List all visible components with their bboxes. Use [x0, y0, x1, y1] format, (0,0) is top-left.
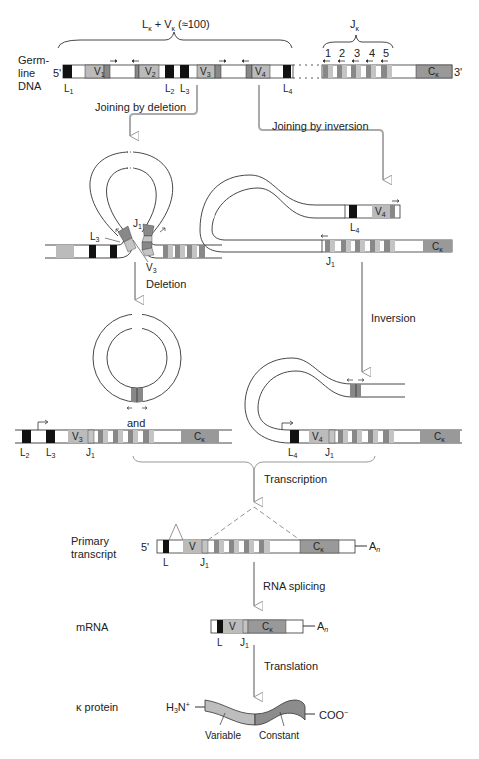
deletion-loop — [45, 152, 222, 262]
L3-block — [180, 65, 189, 78]
inv-J1-label: J1 — [326, 256, 335, 268]
inversion-loop — [200, 175, 452, 252]
transcription-start-arrow — [38, 420, 48, 430]
germline-label-2: line — [18, 67, 35, 79]
joining-by-deletion-label: Joining by deletion — [95, 101, 186, 113]
inversion-label: Inversion — [371, 312, 416, 324]
germline-gap — [293, 65, 322, 78]
V1-rss — [104, 65, 110, 78]
three-prime-label: 3' — [454, 66, 462, 78]
L1-label: L1 — [64, 83, 74, 95]
c-terminus-label: COO− — [319, 709, 348, 721]
germline-label-3: DNA — [18, 80, 42, 92]
inversion-result-dna — [245, 358, 462, 443]
V2-rss — [135, 65, 139, 78]
process-arrows — [130, 85, 383, 697]
j-number-2: 2 — [339, 47, 345, 59]
invres-L4-label: L4 — [288, 447, 298, 459]
j-number-4: 4 — [369, 47, 375, 59]
L2-label: L2 — [165, 83, 175, 95]
variable-region — [205, 700, 255, 725]
translation-label: Translation — [264, 660, 318, 672]
transcription-label: Transcription — [264, 473, 327, 485]
mrna-L-label: L — [217, 637, 223, 648]
kappa-rearrangement-diagram: Germ- line DNA 5' Lκ + Vκ (≈100) Jκ V1 V… — [0, 0, 479, 759]
brace-j-label: Jκ — [350, 18, 360, 32]
loop-L3-label: L3 — [90, 231, 100, 243]
pt-five-prime: 5' — [141, 541, 149, 553]
inversion-joining-arrow — [259, 85, 383, 180]
and-label: and — [127, 417, 145, 429]
mrna-V-label: V — [229, 621, 236, 632]
germline-label-1: Germ- — [18, 54, 50, 66]
kappa-protein-label: κ protein — [76, 701, 118, 713]
deleted-circle — [93, 312, 181, 410]
L3-label: L3 — [180, 83, 190, 95]
j-number-1: 1 — [325, 47, 331, 59]
primary-transcript-label-1: Primary — [71, 535, 109, 547]
j-number-5: 5 — [383, 47, 389, 59]
del-L2-label: L2 — [20, 447, 30, 459]
constant-label: Constant — [259, 730, 299, 741]
kappa-protein — [195, 700, 315, 726]
V3-rss — [215, 65, 221, 78]
pt-J1-label: J1 — [200, 557, 209, 569]
germline-dna: Germ- line DNA 5' Lκ + Vκ (≈100) Jκ V1 V… — [18, 18, 462, 95]
L1-block — [63, 65, 72, 78]
L4-label: L4 — [283, 83, 293, 95]
loop-V3-label: V3 — [146, 262, 157, 274]
pt-V-label: V — [189, 541, 196, 552]
loop-J1-label: J1 — [133, 218, 142, 230]
rss-orientation-arrows — [110, 60, 388, 63]
primary-transcript-label-2: transcript — [71, 548, 116, 560]
joining-by-inversion-label: Joining by inversion — [272, 120, 369, 132]
del-J1-label: J1 — [86, 447, 95, 459]
L4-block — [283, 65, 291, 78]
brace-lv-label: Lκ + Vκ (≈100) — [142, 18, 210, 32]
pt-poly-a: An — [369, 540, 380, 553]
mrna-poly-a: An — [317, 620, 328, 633]
V4-rss — [246, 65, 252, 78]
j-number-3: 3 — [354, 47, 360, 59]
inv-L4-label: L4 — [350, 222, 360, 234]
invres-J1-label: J1 — [325, 447, 334, 459]
transcription-start-arrow-inv — [282, 421, 293, 430]
rna-splicing-label: RNA splicing — [263, 580, 325, 592]
n-terminus-label: H3N+ — [166, 701, 190, 714]
mrna-label: mRNA — [76, 621, 109, 633]
brace-lv — [58, 32, 292, 48]
del-L3-label: L3 — [46, 447, 56, 459]
deletion-label: Deletion — [146, 278, 186, 290]
L2-block — [165, 65, 174, 78]
variable-label: Variable — [205, 730, 241, 741]
five-prime-label: 5' — [53, 67, 61, 79]
mrna-J1-label: J1 — [240, 637, 249, 649]
merge-brace — [133, 456, 375, 470]
pt-L-label: L — [163, 557, 169, 568]
